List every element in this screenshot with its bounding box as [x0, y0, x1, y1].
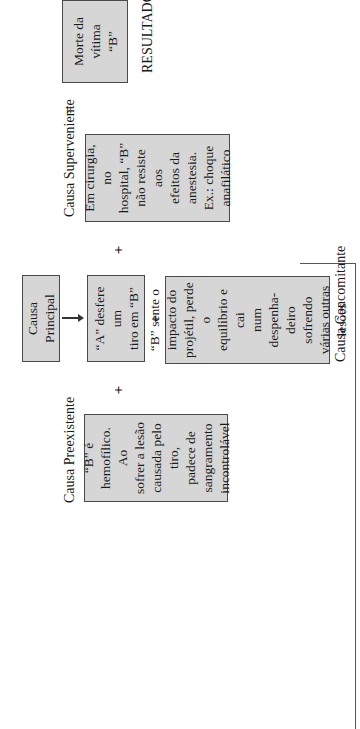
box-causa-concomitante: “B” sente o impacto do projétil, perde o… — [165, 276, 330, 364]
box-causa-principal: “A” desfere um tiro em “B” — [87, 275, 145, 362]
box-causa-preexistente: “B” é hemofílico. Ao sofrer a lesão caus… — [84, 414, 228, 502]
box-causa-principal-label: Causa Principal — [22, 275, 60, 362]
label-causa-concomitante: Causa Concomitante — [333, 246, 349, 362]
equals-operator: = — [62, 103, 77, 117]
plus-operator-1: + — [111, 383, 126, 397]
arrow-down-icon — [62, 318, 79, 320]
box-resultado: Morte da vítima “B” — [62, 0, 128, 83]
box-causa-superveniente: Em cirurgia, no hospital, “B” não resist… — [85, 134, 230, 222]
causality-diagram: Causa Preexistente “B” é hemofílico. Ao … — [0, 0, 360, 729]
plus-operator-3: + — [111, 243, 126, 257]
label-causa-preexistente: Causa Preexistente — [62, 397, 78, 503]
label-resultado: RESULTADO — [140, 0, 156, 73]
